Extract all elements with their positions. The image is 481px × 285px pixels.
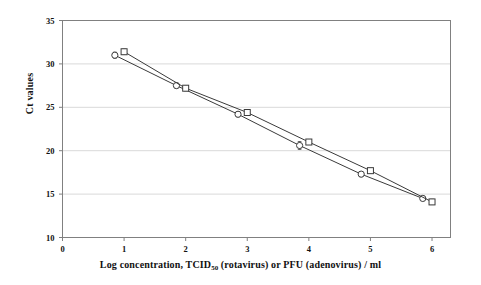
y-tick-label: 25 bbox=[33, 102, 55, 112]
x-tick-label: 1 bbox=[114, 244, 134, 254]
x-tick-label: 6 bbox=[422, 244, 442, 254]
series-adenovirus bbox=[121, 49, 435, 205]
series-line bbox=[115, 55, 423, 198]
y-tick-label: 15 bbox=[33, 189, 55, 199]
y-tick-label: 30 bbox=[33, 59, 55, 69]
data-point-square bbox=[429, 199, 435, 205]
x-tick-label: 0 bbox=[53, 244, 73, 254]
x-tick-label: 4 bbox=[299, 244, 319, 254]
data-point-circle bbox=[235, 111, 241, 117]
y-tick-label: 20 bbox=[33, 146, 55, 156]
x-tick-label: 5 bbox=[360, 244, 380, 254]
data-point-circle bbox=[358, 171, 364, 177]
data-point-square bbox=[121, 49, 127, 55]
data-point-square bbox=[244, 110, 250, 116]
chart-container: Ct values Log concentration, TCID50 (rot… bbox=[0, 0, 481, 285]
series-rotavirus bbox=[112, 52, 426, 201]
series-line bbox=[124, 52, 432, 202]
x-tick-label: 3 bbox=[237, 244, 257, 254]
data-point-square bbox=[367, 168, 373, 174]
data-point-circle bbox=[112, 52, 118, 58]
data-point-square bbox=[306, 139, 312, 145]
data-point-circle bbox=[173, 83, 179, 89]
y-tick-label: 35 bbox=[33, 16, 55, 26]
plot-area bbox=[0, 0, 481, 285]
data-point-circle bbox=[297, 142, 303, 148]
x-tick-label: 2 bbox=[176, 244, 196, 254]
y-tick-label: 10 bbox=[33, 233, 55, 243]
data-point-square bbox=[183, 85, 189, 91]
